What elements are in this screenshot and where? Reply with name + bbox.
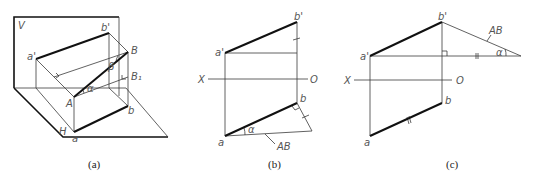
label-H: H: [59, 126, 67, 137]
caption-c: (c): [446, 158, 459, 171]
label-B: B: [131, 45, 138, 56]
alpha-arc: [244, 128, 245, 135]
label-b: b: [128, 105, 134, 116]
right-angle-mark: [442, 51, 447, 56]
label-b-prime: b': [101, 22, 110, 33]
figure-b: a' b' X O b a α AB (b): [197, 11, 318, 171]
label-a-prime: a': [215, 47, 224, 58]
label-a: a: [72, 133, 78, 144]
line-A-B1: [74, 77, 128, 97]
edge-b-x-b: [109, 88, 128, 106]
right-angle-mark: [292, 106, 299, 110]
edge-a-prime-A: [36, 59, 74, 97]
line-a-prime-b-prime: [36, 33, 109, 59]
label-b: b: [445, 95, 451, 106]
label-B1: B₁: [131, 71, 142, 82]
label-a-prime: a': [360, 51, 369, 62]
true-length-AB: [225, 131, 312, 136]
line-ab: [74, 106, 128, 132]
label-alpha: α: [496, 47, 503, 58]
caption-a: (a): [88, 158, 101, 171]
tick-mark-1: [293, 38, 300, 40]
line-ab: [225, 103, 297, 136]
label-AB: AB: [276, 141, 291, 152]
parallel-line-beta: [54, 52, 128, 77]
label-alpha: α: [248, 124, 255, 135]
label-AB: AB: [488, 25, 503, 36]
label-beta: β: [107, 61, 115, 72]
label-alpha: α: [87, 83, 94, 94]
label-A: A: [65, 98, 73, 109]
label-a: a: [364, 137, 370, 148]
true-length-AB: [442, 22, 521, 56]
label-V: V: [18, 20, 26, 31]
label-b-prime: b': [294, 11, 303, 22]
figure-c: a' b' X O b a α AB (c): [343, 11, 521, 171]
label-b: b: [300, 93, 306, 104]
label-b-prime: b': [438, 11, 447, 22]
line-a-prime-b-prime: [370, 22, 442, 56]
line-AB: [74, 52, 128, 97]
label-X: X: [343, 75, 352, 86]
line-ab: [370, 103, 442, 136]
label-a-prime: a': [27, 51, 36, 62]
label-a: a: [218, 137, 224, 148]
tick-mark-2: [302, 115, 309, 118]
AB-leader: [265, 134, 275, 144]
line-a-prime-b-prime: [225, 22, 297, 53]
alpha-arc: [505, 49, 506, 56]
h-plane-frame: [14, 88, 168, 137]
caption-b: (b): [268, 158, 281, 171]
projection-diagram: V a' b' B B₁ A α β b a H (a) a' b' X O b…: [0, 0, 534, 182]
label-O: O: [310, 74, 318, 85]
edge-b-prime-B: [109, 33, 128, 52]
figure-a: V a' b' B B₁ A α β b a H (a): [14, 17, 168, 171]
label-O: O: [456, 75, 464, 86]
edge-a-x-a: [36, 88, 74, 132]
label-X: X: [197, 74, 206, 85]
